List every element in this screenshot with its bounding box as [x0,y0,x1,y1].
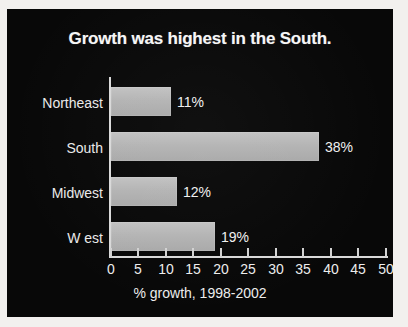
x-tick-40 [330,248,332,257]
category-label-midwest: Midwest [7,185,103,201]
x-tick-30 [275,248,277,257]
chart-figure: Growth was highest in the South. Northea… [0,0,408,327]
category-label-west: W est [7,230,103,246]
category-label-south: South [7,140,103,156]
value-label-south: 38% [325,139,353,155]
x-tick-15 [192,248,194,257]
bar-west [111,222,215,251]
x-tick-35 [302,248,304,257]
x-tick-45 [357,248,359,257]
category-label-northeast: Northeast [7,95,103,111]
chart-plate: Growth was highest in the South. Northea… [7,9,393,317]
bar-south [111,132,319,161]
y-axis-line [109,77,111,257]
bar-midwest [111,177,177,206]
x-tick-50 [385,248,387,257]
bar-northeast [111,87,171,116]
x-tick-20 [220,248,222,257]
x-tick-25 [247,248,249,257]
plot-area: Northeast South Midwest W est 11% 38% 12… [7,9,393,317]
x-tick-10 [165,248,167,257]
value-label-midwest: 12% [183,184,211,200]
value-label-west: 19% [221,229,249,245]
x-tick-label-50: 50 [366,261,393,277]
x-tick-5 [137,248,139,257]
value-label-northeast: 11% [177,94,204,110]
x-axis-title: % growth, 1998-2002 [7,285,393,301]
x-tick-0 [110,248,112,257]
